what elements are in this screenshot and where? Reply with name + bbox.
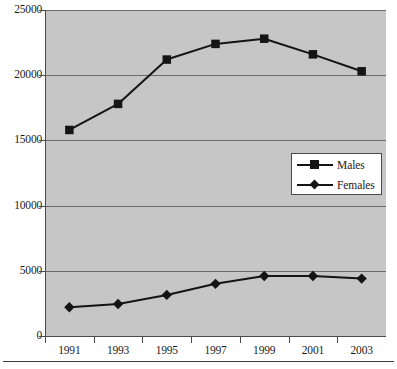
data-point-males-1995	[163, 55, 172, 64]
legend-label-males: Males	[337, 159, 365, 171]
series-males	[65, 34, 366, 134]
data-point-females-2001	[308, 271, 318, 281]
data-point-females-1991	[64, 302, 74, 312]
legend-square-marker-icon	[297, 158, 333, 172]
data-point-males-2003	[357, 67, 366, 76]
legend-label-females: Females	[337, 179, 375, 191]
legend-diamond-marker-icon	[297, 178, 333, 192]
data-point-males-2001	[309, 50, 318, 59]
series-line-males	[69, 39, 361, 130]
data-point-males-1997	[211, 40, 220, 49]
data-point-females-1999	[259, 271, 269, 281]
legend-entry-males: Males	[292, 154, 381, 175]
data-point-males-1991	[65, 126, 74, 135]
data-point-males-1993	[114, 100, 123, 109]
data-point-females-1995	[162, 290, 172, 300]
data-point-females-1997	[210, 279, 220, 289]
series-females	[64, 271, 367, 313]
chart-legend: Males Females	[291, 153, 382, 195]
line-chart: 0500010000150002000025000 19911993199519…	[0, 0, 397, 369]
data-point-females-1993	[113, 299, 123, 309]
data-point-females-2003	[356, 273, 366, 283]
footer-divider	[3, 361, 394, 362]
legend-entry-females: Females	[292, 174, 381, 195]
data-point-males-1999	[260, 34, 269, 43]
